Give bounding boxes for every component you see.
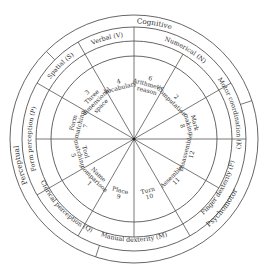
- test-segment: Markmaking8: [177, 111, 202, 138]
- segment-dividers: [36, 27, 252, 257]
- factor-label: Finger dexterity (F): [199, 160, 235, 216]
- ability-wheel-diagram: CognitivePsychomotorPerceptual Verbal (V…: [0, 0, 268, 275]
- test-label: Markmaking8: [177, 111, 202, 138]
- center-hub: [132, 137, 135, 140]
- domain-divider: [96, 246, 100, 257]
- factor-divider: [183, 224, 190, 236]
- test-label: Place9: [110, 184, 130, 201]
- factor-divider: [78, 42, 85, 54]
- test-label: Turn10: [140, 185, 158, 202]
- factor-label: Verbal (V): [89, 31, 123, 47]
- factor-label: Form perception (P): [25, 105, 37, 172]
- factor-divider: [37, 83, 49, 90]
- test-segment: Turn10: [140, 185, 158, 202]
- factor-label: Motor coordination (K): [217, 76, 243, 150]
- domain-divider: [46, 51, 54, 59]
- domain-divider: [241, 101, 252, 105]
- test-segment: Place9: [110, 184, 130, 201]
